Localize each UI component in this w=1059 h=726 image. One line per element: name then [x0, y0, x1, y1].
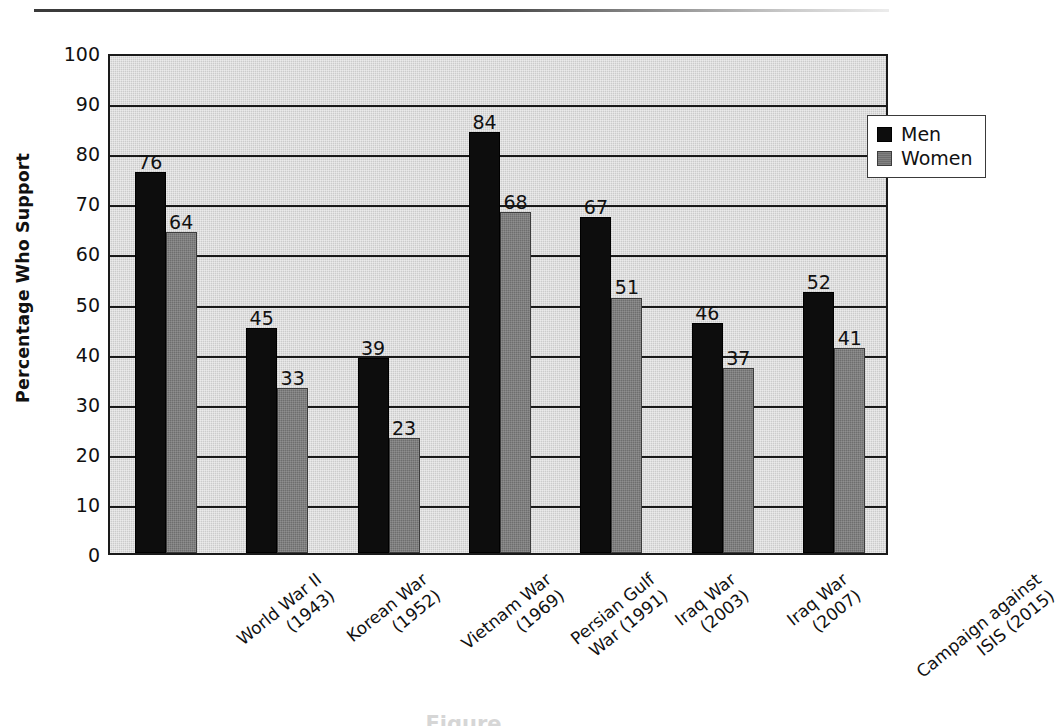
y-tick-label: 50	[38, 294, 100, 316]
chart-legend: Men Women	[867, 115, 986, 178]
bar-value-label: 39	[350, 337, 397, 359]
y-axis-title: Percentage Who Support	[0, 0, 46, 556]
bar-women	[834, 348, 865, 553]
bar-women	[500, 212, 531, 553]
bar-value-label: 68	[492, 191, 539, 213]
y-tick-label: 60	[38, 243, 100, 265]
x-axis-label: Persian GulfWar (1991)	[567, 569, 673, 666]
y-tick-label: 20	[38, 444, 100, 466]
x-axis-label: Campaign againstISIS (2015)	[913, 569, 1059, 699]
bar-men	[580, 217, 611, 553]
bar-value-label: 84	[461, 111, 508, 133]
x-axis-label-line1: Campaign against	[913, 569, 1046, 682]
bar-value-label: 37	[715, 347, 762, 369]
x-axis-label-line2: War (1991)	[580, 586, 673, 667]
bar-value-label: 76	[127, 151, 174, 173]
y-tick-label: 70	[38, 193, 100, 215]
bar-value-label: 46	[684, 302, 731, 324]
legend-item-men: Men	[877, 122, 973, 146]
x-axis-label: Iraq War(2003)	[671, 569, 754, 647]
bar-women	[611, 298, 642, 554]
bar-value-label: 23	[381, 417, 428, 439]
x-axis-label-line2: ISIS (2015)	[926, 586, 1059, 700]
bar-value-label: 45	[238, 307, 285, 329]
legend-item-women: Women	[877, 146, 973, 170]
y-tick-label: 80	[38, 143, 100, 165]
x-axis-label: Vietnam War(1969)	[457, 569, 569, 671]
x-axis-label-line1: Vietnam War	[457, 569, 555, 653]
x-axis-label: World War II(1943)	[233, 569, 340, 667]
bar-value-label: 67	[572, 196, 619, 218]
y-tick-label: 40	[38, 344, 100, 366]
bar-men	[246, 328, 277, 553]
bar-value-label: 64	[158, 211, 205, 233]
x-axis-label-line2: (1943)	[246, 586, 339, 667]
y-tick-label: 100	[38, 43, 100, 65]
bar-value-label: 52	[795, 271, 842, 293]
x-axis-label-line1: Persian Gulf	[567, 569, 659, 649]
y-tick-label: 0	[38, 544, 100, 566]
bar-women	[277, 388, 308, 553]
x-axis-label: Korean War(1952)	[343, 569, 446, 664]
y-tick-label: 30	[38, 394, 100, 416]
bar-women	[723, 368, 754, 553]
legend-swatch-men-icon	[877, 127, 892, 142]
bar-men	[358, 358, 389, 553]
bottom-caption: Figure	[0, 712, 927, 726]
bar-value-label: 51	[603, 276, 650, 298]
x-axis-label-line2: (1969)	[470, 586, 568, 671]
x-axis-label-line1: World War II	[233, 569, 325, 649]
bar-value-label: 41	[826, 327, 873, 349]
bar-value-label: 33	[269, 367, 316, 389]
bar-women	[166, 232, 197, 553]
bar-women	[389, 438, 420, 553]
x-axis-label-line1: Iraq War	[671, 569, 739, 630]
x-axis-label-line1: Korean War	[343, 569, 431, 646]
y-axis-title-text: Percentage Who Support	[13, 153, 33, 403]
plot-area: 7664453339238468675146375241 Men Women	[108, 54, 888, 555]
gridline	[110, 105, 886, 107]
legend-label-women: Women	[901, 147, 973, 169]
top-divider-rule	[34, 9, 889, 12]
x-axis-label-line2: (2003)	[685, 586, 754, 648]
legend-label-men: Men	[901, 123, 941, 145]
y-tick-label: 90	[38, 93, 100, 115]
x-axis-label: Iraq War(2007)	[783, 569, 866, 647]
legend-swatch-women-icon	[877, 151, 892, 166]
y-tick-label: 10	[38, 494, 100, 516]
x-axis-label-line1: Iraq War	[783, 569, 851, 630]
x-axis-label-line2: (1952)	[356, 586, 445, 664]
x-axis-label-line2: (2007)	[796, 586, 865, 648]
